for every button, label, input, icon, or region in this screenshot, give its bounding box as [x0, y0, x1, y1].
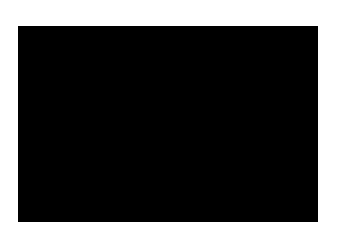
spectrum-plot-area [18, 26, 318, 222]
spectrum-heatmap-canvas [18, 26, 318, 222]
figure-container [0, 0, 339, 250]
